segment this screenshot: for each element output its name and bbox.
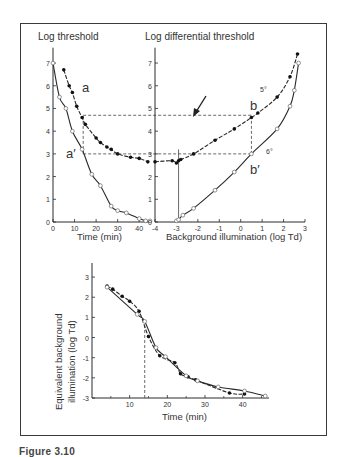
data-point-open [71,129,75,133]
y-tick-label: 5 [148,105,152,112]
data-point-filled [228,391,232,395]
data-point-filled [158,354,162,358]
y-tick-label: 2 [85,294,89,301]
y-tick-label: 6 [46,83,50,90]
data-point-filled [192,152,196,156]
data-point-filled [84,123,88,127]
data-point-open [196,379,200,383]
data-point-open [144,219,148,223]
data-point-open [80,147,84,151]
panel-log-differential-threshold: 01234567-4-3-2-10123 [148,48,307,232]
bottom-ylabel-line2: illumination (log Td) [66,320,77,403]
data-point-open [164,355,168,359]
series-curve [107,287,265,396]
data-point-open [213,188,217,192]
data-point-open [232,170,236,174]
data-point-open [51,61,55,65]
y-tick-label: -1 [83,355,89,362]
data-point-open [297,61,301,65]
panel-log-threshold: 01234567010203040 [46,48,251,232]
data-point-open [116,209,120,213]
data-point-filled [137,157,141,161]
bottom-ylabel-line1: Equivalent background [53,313,64,410]
data-point-open [137,217,141,221]
y-tick-label: 3 [46,151,50,158]
data-point-open [109,204,113,208]
y-tick-label: -2 [83,375,89,382]
curve-label-b-prime: b′ [250,162,260,177]
eccentricity-5-label: 5° [260,86,267,93]
y-tick-label: 4 [46,128,50,135]
data-point-open [58,95,62,99]
series-curve [155,54,298,163]
y-tick-label: 4 [148,128,152,135]
data-point-open [184,374,188,378]
y-tick-label: 5 [46,105,50,112]
data-point-filled [179,158,183,162]
y-tick-label: 2 [46,174,50,181]
data-point-filled [250,116,254,120]
y-tick-label: 3 [148,151,152,158]
y-tick-label: 1 [46,196,50,203]
data-point-open [288,104,292,108]
data-point-filled [153,160,157,164]
data-point-filled [146,160,150,164]
data-point-filled [105,145,109,149]
data-point-filled [94,136,98,140]
y-tick-label: 0 [85,335,89,342]
data-point-open [90,172,94,176]
data-point-open [124,211,128,215]
y-tick-label: 6 [148,83,152,90]
x-tick-label: 40 [135,225,143,232]
data-point-filled [128,299,132,303]
tr-xlabel: Background illumination (log Td) [166,231,302,242]
y-tick-label: 1 [85,314,89,321]
y-tick-label: 2 [148,174,152,181]
y-tick-label: -3 [83,395,89,402]
data-point-filled [62,68,66,72]
data-point-filled [120,294,124,298]
panel-equivalent-background: 3210-1-2-310203040 [83,263,269,408]
data-point-open [99,184,103,188]
data-point-open [181,213,185,217]
data-point-open [263,394,267,398]
data-point-open [243,389,247,393]
bottom-xlabel: Time (min) [162,411,207,422]
curve-label-b: b [250,98,257,113]
data-point-open [177,218,181,222]
data-point-filled [71,91,75,95]
data-point-filled [147,335,151,339]
data-point-open [64,107,68,111]
y-tick-label: 1 [148,196,152,203]
data-point-filled [129,155,133,159]
data-point-open [154,346,158,350]
x-tick-label: 40 [239,401,247,408]
figure-caption: Figure 3.10 [19,446,75,457]
data-point-filled [99,141,103,145]
data-point-filled [232,127,236,131]
data-point-open [192,206,196,210]
data-point-open [275,127,279,131]
data-point-open [135,312,139,316]
y-tick-label: 3 [85,274,89,281]
data-point-filled [75,104,79,108]
data-point-open [216,385,220,389]
y-tick-label: 7 [148,60,152,67]
y-tick-label: 0 [46,219,50,226]
tl-xlabel: Time (min) [77,231,122,242]
series-curve [176,63,298,221]
data-point-filled [67,84,71,88]
data-point-open [292,88,296,92]
tr-title: Log differential threshold [145,31,254,42]
y-tick-label: 7 [46,60,50,67]
data-point-open [143,320,147,324]
eccentricity-6-label: 6° [266,148,273,155]
data-point-filled [80,116,84,120]
data-point-filled [213,138,217,142]
x-tick-label: 20 [163,401,171,408]
data-point-filled [109,148,113,152]
data-point-filled [288,75,292,79]
data-point-filled [275,95,279,99]
tl-title: Log threshold [38,31,99,42]
